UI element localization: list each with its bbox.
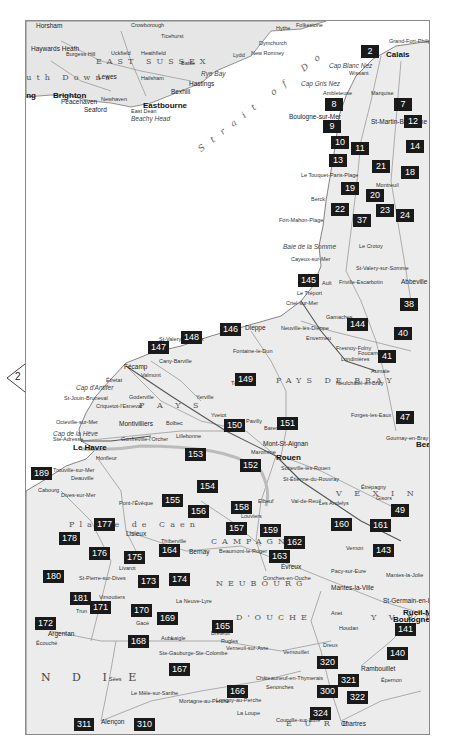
page-ref-9[interactable]: 9 <box>323 120 341 133</box>
place-label: Criel-sur-Mer <box>286 301 318 307</box>
page-ref-151[interactable]: 151 <box>277 417 298 430</box>
page-ref-164[interactable]: 164 <box>159 544 180 557</box>
page-ref-324[interactable]: 324 <box>310 707 331 720</box>
place-label: Worthing <box>25 92 36 100</box>
page-ref-157[interactable]: 157 <box>226 522 247 535</box>
page-ref-159[interactable]: 159 <box>260 524 281 537</box>
page-ref-146[interactable]: 146 <box>220 323 241 336</box>
page-ref-40[interactable]: 40 <box>394 327 412 340</box>
place-label: Épernon <box>381 678 402 684</box>
page-ref-22[interactable]: 22 <box>331 203 349 216</box>
page-ref-300[interactable]: 300 <box>317 685 338 698</box>
page-ref-175[interactable]: 175 <box>124 551 145 564</box>
page-ref-163[interactable]: 163 <box>269 550 290 563</box>
region-label: D'OUCHE <box>236 613 312 622</box>
page-ref-145[interactable]: 145 <box>298 274 319 287</box>
page-ref-189[interactable]: 189 <box>31 467 52 480</box>
page-ref-143[interactable]: 143 <box>373 544 394 557</box>
page-ref-155[interactable]: 155 <box>162 494 183 507</box>
page-ref-322[interactable]: 322 <box>347 691 368 704</box>
page-ref-173[interactable]: 173 <box>138 575 159 588</box>
place-label: Calais <box>386 51 410 59</box>
page-ref-165[interactable]: 165 <box>212 620 233 633</box>
page-ref-144[interactable]: 144 <box>347 318 368 331</box>
page-ref-21[interactable]: 21 <box>372 160 390 173</box>
page-ref-23[interactable]: 23 <box>376 204 394 217</box>
place-label: Beachy Head <box>131 116 170 123</box>
page-ref-167[interactable]: 167 <box>169 663 190 676</box>
place-label: Crowborough <box>131 23 164 29</box>
page-ref-180[interactable]: 180 <box>43 570 64 583</box>
place-label: Ste-Adresse <box>53 437 83 443</box>
page-ref-310[interactable]: 310 <box>134 718 155 731</box>
page-ref-320[interactable]: 320 <box>317 656 338 669</box>
page-ref-172[interactable]: 172 <box>35 617 56 630</box>
page-ref-148[interactable]: 148 <box>181 331 202 344</box>
place-label: Fontaine-le-Dun <box>233 349 272 355</box>
place-label: Rye Bay <box>201 71 226 78</box>
page-ref-38[interactable]: 38 <box>400 298 418 311</box>
page-ref-181[interactable]: 181 <box>70 592 91 605</box>
place-label: Ault <box>322 281 331 287</box>
page-ref-161[interactable]: 161 <box>370 519 391 532</box>
place-label: Gacé <box>136 621 149 627</box>
page-ref-166[interactable]: 166 <box>227 685 248 698</box>
page-ref-14[interactable]: 14 <box>406 140 424 153</box>
page-ref-12[interactable]: 12 <box>404 115 422 128</box>
page-ref-311[interactable]: 311 <box>74 718 94 731</box>
page-ref-147[interactable]: 147 <box>148 341 169 354</box>
page-ref-8[interactable]: 8 <box>325 98 343 111</box>
page-ref-37[interactable]: 37 <box>353 214 371 227</box>
place-label: Lillebonne <box>176 434 201 440</box>
region-label: P A Y S <box>139 401 204 410</box>
page-ref-149[interactable]: 149 <box>235 373 256 386</box>
place-label: Heathfield <box>141 51 166 57</box>
place-label: St-Étienne-du-Rouvray <box>283 477 339 483</box>
page-ref-169[interactable]: 169 <box>157 612 178 625</box>
place-label: Montivilliers <box>119 421 153 428</box>
page-ref-18[interactable]: 18 <box>401 166 419 179</box>
place-label: Dieppe <box>245 325 266 332</box>
page-ref-156[interactable]: 156 <box>188 505 209 518</box>
place-label: Burgess Hill <box>66 52 95 58</box>
page-ref-7[interactable]: 7 <box>394 98 412 111</box>
page-ref-19[interactable]: 19 <box>341 182 359 195</box>
page-ref-20[interactable]: 20 <box>366 189 384 202</box>
page-ref-141[interactable]: 141 <box>395 623 416 636</box>
map-frame[interactable]: EAST SUSSEXSouth DownsPAYS DE BRAYP A Y … <box>25 20 430 735</box>
page-ref-150[interactable]: 150 <box>224 419 245 432</box>
page-ref-13[interactable]: 13 <box>329 154 347 167</box>
page-ref-176[interactable]: 176 <box>89 547 110 560</box>
page-ref-158[interactable]: 158 <box>231 501 252 514</box>
page-ref-41[interactable]: 41 <box>378 350 396 363</box>
page-ref-171[interactable]: 171 <box>90 601 111 614</box>
page-ref-24[interactable]: 24 <box>396 209 414 222</box>
page-ref-154[interactable]: 154 <box>197 480 218 493</box>
page-ref-174[interactable]: 174 <box>169 573 190 586</box>
page-ref-178[interactable]: 178 <box>59 532 80 545</box>
region-label: Plaine de Caen <box>69 520 200 529</box>
page-ref-162[interactable]: 162 <box>284 536 305 549</box>
page-ref-168[interactable]: 168 <box>128 635 149 648</box>
page-ref-153[interactable]: 153 <box>185 448 206 461</box>
page-ref-11[interactable]: 11 <box>351 142 369 155</box>
page-ref-152[interactable]: 152 <box>240 459 261 472</box>
place-label: St-Jouin-Bruneval <box>64 396 108 402</box>
page-ref-140[interactable]: 140 <box>387 647 408 660</box>
page-ref-49[interactable]: 49 <box>391 504 409 517</box>
page-ref-2[interactable]: 2 <box>361 45 379 58</box>
place-label: Bolbec <box>166 421 183 427</box>
page-ref-170[interactable]: 170 <box>131 604 152 617</box>
page-ref-160[interactable]: 160 <box>331 518 352 531</box>
place-label: Criquetot-l'Esneval <box>96 404 142 410</box>
place-label: Neufchâtel-en-Bray <box>336 381 383 387</box>
place-label: Écouché <box>36 641 57 647</box>
page-ref-321[interactable]: 321 <box>338 674 359 687</box>
page-ref-177[interactable]: 177 <box>94 518 115 531</box>
previous-page-arrow[interactable]: 2 <box>6 363 26 393</box>
page-ref-47[interactable]: 47 <box>396 411 414 424</box>
place-label: Châteauneuf-en-Thymerais <box>256 676 323 682</box>
place-label: New Romney <box>251 51 284 57</box>
place-label: Pont-l'Évêque <box>119 501 153 507</box>
page-ref-10[interactable]: 10 <box>331 136 349 149</box>
